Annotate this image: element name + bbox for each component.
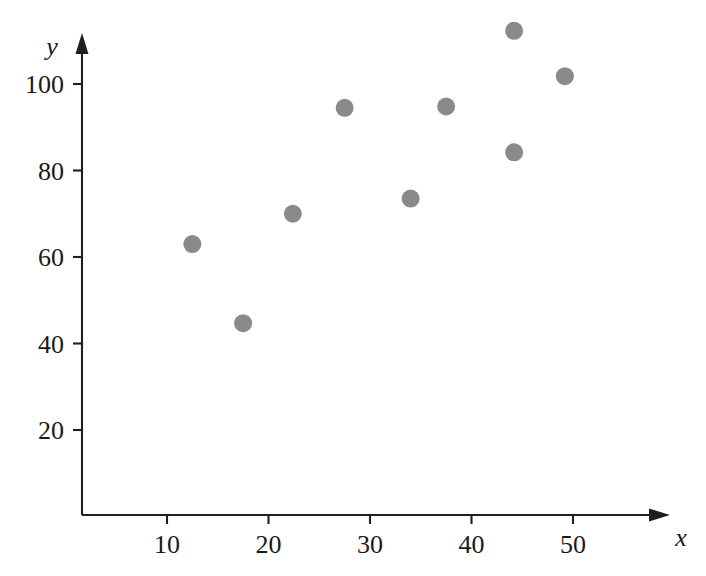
x-tick-label: 40 bbox=[459, 530, 485, 559]
data-point bbox=[284, 205, 302, 223]
y-tick-label: 80 bbox=[38, 157, 64, 186]
data-point bbox=[437, 97, 455, 115]
chart-canvas: 20406080100 1020304050 y x bbox=[0, 0, 706, 576]
y-tick-label: 100 bbox=[25, 70, 64, 99]
scatter-plot-figure: 20406080100 1020304050 y x bbox=[0, 0, 706, 576]
data-point bbox=[505, 22, 523, 40]
y-axis-label: y bbox=[43, 32, 58, 61]
y-tick-label: 40 bbox=[38, 330, 64, 359]
y-tick-label: 20 bbox=[38, 416, 64, 445]
x-tick-label: 10 bbox=[154, 530, 180, 559]
data-point bbox=[336, 99, 354, 117]
y-axis-ticks: 20406080100 bbox=[25, 70, 82, 445]
data-point bbox=[505, 143, 523, 161]
data-point bbox=[234, 314, 252, 332]
x-axis-arrowhead bbox=[649, 509, 670, 522]
y-axis-arrowhead bbox=[76, 33, 89, 54]
x-axis-ticks: 1020304050 bbox=[154, 515, 586, 559]
x-axis-label: x bbox=[674, 523, 687, 552]
x-tick-label: 30 bbox=[357, 530, 383, 559]
data-point bbox=[402, 190, 420, 208]
y-tick-label: 60 bbox=[38, 243, 64, 272]
x-tick-label: 20 bbox=[256, 530, 282, 559]
axes-group bbox=[76, 33, 671, 522]
x-tick-label: 50 bbox=[560, 530, 586, 559]
data-point bbox=[183, 235, 201, 253]
data-points-group bbox=[183, 22, 574, 332]
data-point bbox=[556, 67, 574, 85]
